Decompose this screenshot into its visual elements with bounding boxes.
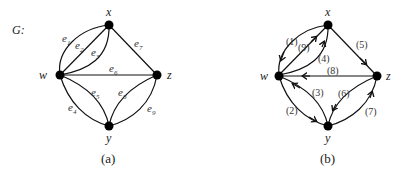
svg-text:e4: e4 bbox=[68, 101, 77, 116]
edge-label-e3: e3 bbox=[91, 46, 100, 61]
graph-a: G: e1 e2 e3 e4 e5 e6 e7 e8 e9 x w z y (a… bbox=[12, 5, 172, 166]
graph-title: G: bbox=[12, 23, 25, 37]
node-w bbox=[275, 72, 284, 81]
edge-label-2: (2) bbox=[286, 105, 298, 117]
node-z bbox=[153, 71, 162, 80]
edge-e8 bbox=[109, 75, 157, 126]
svg-text:e2: e2 bbox=[75, 39, 84, 54]
edge-label-e1: e1 bbox=[62, 32, 70, 47]
arrow-9 bbox=[311, 37, 316, 42]
edge-e9 bbox=[109, 75, 157, 126]
edge-label-e8: e8 bbox=[118, 86, 127, 101]
caption-b: (b) bbox=[320, 151, 335, 166]
node-z bbox=[373, 72, 382, 81]
node-label-w: w bbox=[39, 68, 47, 82]
edge-label-3: (3) bbox=[312, 87, 324, 99]
edge-label-e4: e4 bbox=[68, 101, 77, 116]
node-w bbox=[56, 71, 65, 80]
node-label-x: x bbox=[105, 5, 112, 19]
svg-text:e7: e7 bbox=[134, 37, 143, 52]
svg-text:e5: e5 bbox=[91, 86, 100, 101]
graph-figure: G: e1 e2 e3 e4 e5 e6 e7 e8 e9 x w z y (a… bbox=[0, 0, 409, 176]
node-y bbox=[324, 122, 333, 131]
edge-label-6: (6) bbox=[338, 88, 350, 100]
node-x bbox=[105, 21, 114, 30]
arrow-4 bbox=[322, 42, 324, 47]
svg-text:e3: e3 bbox=[91, 46, 100, 61]
node-label-y: y bbox=[105, 131, 112, 145]
svg-text:e8: e8 bbox=[118, 86, 127, 101]
node-label-x: x bbox=[324, 5, 331, 19]
node-x bbox=[324, 21, 333, 30]
node-label-z: z bbox=[166, 68, 172, 82]
caption-a: (a) bbox=[101, 151, 115, 166]
edge-label-4: (4) bbox=[318, 53, 330, 65]
edge-label-5: (5) bbox=[356, 39, 368, 51]
edge-label-e2: e2 bbox=[75, 39, 84, 54]
edge-7 bbox=[328, 76, 377, 126]
edge-2 bbox=[279, 76, 328, 126]
edge-3 bbox=[279, 76, 328, 126]
node-label-y: y bbox=[324, 131, 331, 145]
edge-6 bbox=[328, 76, 377, 126]
edge-e7 bbox=[109, 25, 157, 75]
node-y bbox=[105, 122, 114, 131]
edge-label-e9: e9 bbox=[147, 102, 156, 117]
svg-text:e9: e9 bbox=[147, 102, 156, 117]
edge-label-8: (8) bbox=[327, 65, 339, 77]
graph-b: (1) (2) (3) (4) (5) (6) (7) (8) (9) x w … bbox=[260, 5, 391, 166]
node-label-z: z bbox=[385, 69, 391, 83]
edge-label-e5: e5 bbox=[91, 86, 100, 101]
node-label-w: w bbox=[260, 69, 268, 83]
edge-label-9: (9) bbox=[298, 42, 310, 54]
arrow-5 bbox=[360, 58, 366, 64]
svg-text:e1: e1 bbox=[62, 32, 70, 47]
edge-label-e7: e7 bbox=[134, 37, 143, 52]
edge-label-7: (7) bbox=[365, 106, 377, 118]
edge-label-1: (1) bbox=[286, 36, 298, 48]
